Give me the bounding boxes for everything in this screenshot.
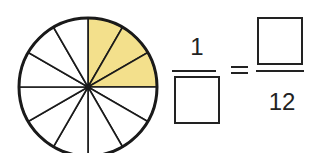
left-denominator-box: [175, 77, 219, 123]
left-numerator: 1: [182, 33, 212, 61]
fraction-circle: [0, 0, 313, 153]
right-numerator-box: [258, 18, 302, 64]
right-denominator: 12: [262, 88, 302, 116]
